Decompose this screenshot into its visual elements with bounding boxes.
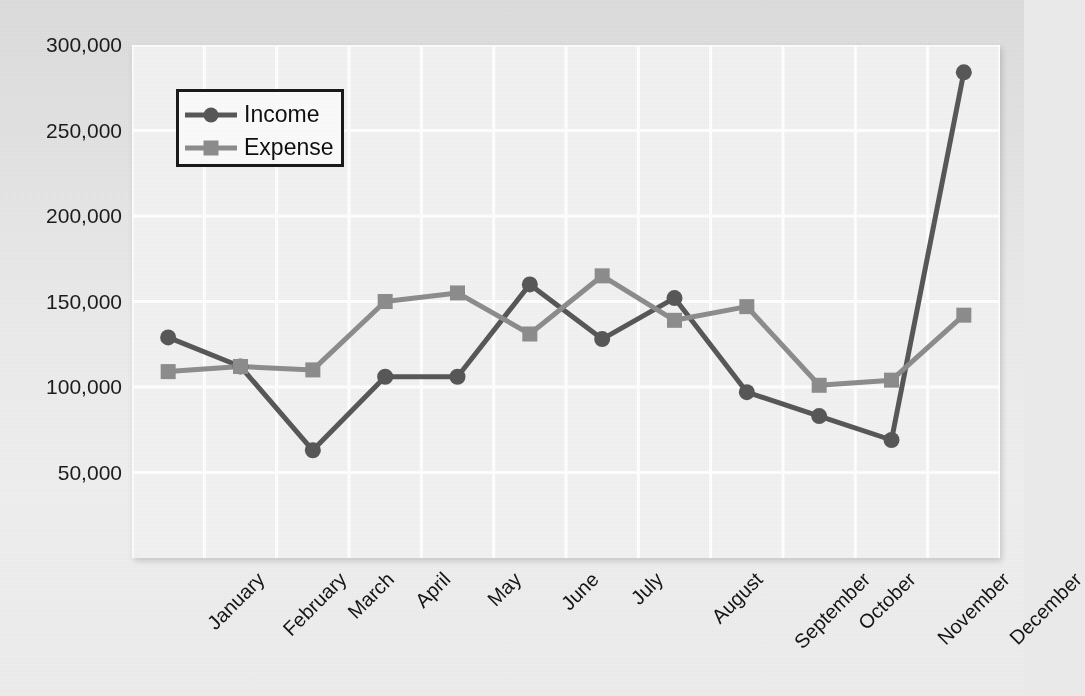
y-axis-tick-label: 50,000 (0, 461, 122, 485)
x-axis-tick-label: February (278, 568, 351, 641)
y-axis-tick-label: 300,000 (0, 33, 122, 57)
y-axis-tick-label: 200,000 (0, 204, 122, 228)
legend-label-expense: Expense (244, 136, 334, 159)
chart-title (0, 0, 1024, 4)
x-axis-tick-label: May (483, 568, 526, 611)
legend-label-income: Income (244, 103, 319, 126)
x-axis-tick-label: November (933, 568, 1015, 650)
legend-item-income[interactable]: Income (185, 98, 333, 131)
x-axis-tick-label: June (557, 568, 604, 615)
y-axis-tick-label: 100,000 (0, 375, 122, 399)
expense-marker-icon (185, 139, 237, 157)
x-axis-tick-label: March (343, 568, 399, 624)
income-marker-icon (185, 106, 237, 124)
legend-item-expense[interactable]: Expense (185, 131, 333, 164)
x-axis-tick-label: December (1005, 568, 1085, 650)
x-axis-tick-label: July (627, 568, 668, 609)
y-axis-tick-label: 250,000 (0, 119, 122, 143)
x-axis-tick-label: April (411, 568, 456, 613)
x-axis-tick-label: August (707, 568, 767, 628)
chart-legend[interactable]: Income Expense (176, 89, 344, 167)
x-axis-tick-label: January (203, 568, 270, 635)
y-axis-tick-label: 150,000 (0, 290, 122, 314)
